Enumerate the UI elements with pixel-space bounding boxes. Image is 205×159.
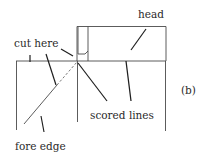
head-label: head bbox=[138, 8, 164, 20]
head-leader bbox=[131, 29, 146, 50]
scored-lines-leader-right bbox=[126, 61, 131, 101]
fore-edge-leader bbox=[41, 116, 44, 132]
corner-tab bbox=[78, 27, 88, 54]
cut-here-label: cut here bbox=[14, 37, 58, 49]
cut-here-leader-tab bbox=[61, 49, 73, 56]
scored-lines-leader-left bbox=[78, 63, 107, 101]
head-flap bbox=[77, 27, 166, 62]
scored-lines-label: scored lines bbox=[90, 109, 154, 121]
cut-here-leader-diagonal bbox=[46, 54, 56, 85]
book-cut-diagram: head cut here scored lines fore edge (b) bbox=[0, 0, 205, 159]
fore-edge-label: fore edge bbox=[15, 140, 66, 152]
diagonal-dashed-line bbox=[57, 62, 77, 85]
diagonal-solid-line bbox=[24, 85, 57, 124]
panel-label: (b) bbox=[181, 84, 196, 96]
